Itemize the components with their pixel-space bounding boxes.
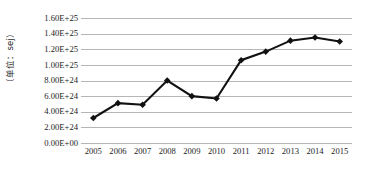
y-tick-label: 1.60E+25 (22, 14, 78, 23)
y-tick-label: 8.00E+24 (22, 76, 78, 85)
data-series-line (81, 18, 352, 143)
y-tick-label: 6.00E+24 (22, 92, 78, 101)
y-tick-label: 2.00E+24 (22, 123, 78, 132)
data-point-marker (336, 38, 343, 45)
y-axis-tick-labels: 0.00E+002.00E+244.00E+246.00E+248.00E+24… (22, 0, 78, 181)
y-tick-label: 0.00E+00 (22, 139, 78, 148)
series-polyline (93, 38, 339, 118)
series-markers (90, 34, 343, 121)
data-point-marker (312, 34, 319, 41)
y-tick-label: 1.00E+25 (22, 61, 78, 70)
data-point-marker (287, 37, 294, 44)
x-tick-label: 2015 (323, 146, 357, 156)
y-tick-label: 1.40E+25 (22, 29, 78, 38)
emergy-line-chart: （单位：sej） 0.00E+002.00E+244.00E+246.00E+2… (0, 0, 367, 181)
data-point-marker (262, 48, 269, 55)
y-axis-label: （单位：sej） (3, 10, 15, 106)
x-axis-tick-labels: 2005200620072008200920102011201220132014… (81, 146, 352, 166)
plot-area (81, 18, 352, 143)
y-tick-label: 1.20E+25 (22, 45, 78, 54)
y-tick-label: 4.00E+24 (22, 107, 78, 116)
gridline (81, 143, 352, 144)
